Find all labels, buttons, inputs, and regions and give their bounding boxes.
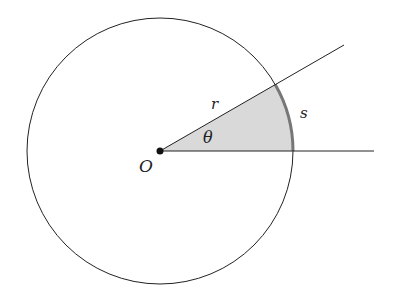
arc-label: s — [300, 106, 308, 121]
sector-shading — [160, 85, 293, 152]
diagram-canvas: O r s θ — [0, 0, 393, 302]
origin-point — [157, 148, 164, 155]
origin-label: O — [139, 158, 153, 175]
radius-label: r — [211, 97, 218, 112]
diagram-svg — [0, 0, 393, 302]
angle-label: θ — [203, 130, 213, 146]
